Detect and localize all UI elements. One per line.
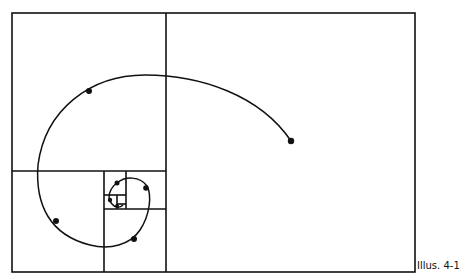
- spiral-point: [115, 181, 120, 186]
- spiral-point: [143, 185, 149, 191]
- spiral-point: [53, 218, 59, 224]
- spiral-point: [288, 138, 294, 144]
- figure-caption: Illus. 4-1: [417, 260, 460, 271]
- spiral-point: [115, 204, 119, 208]
- golden-spiral: [38, 75, 291, 247]
- golden-spiral-diagram: [0, 0, 467, 277]
- rectangle-grid: [12, 13, 415, 272]
- spiral-point: [108, 198, 112, 202]
- spiral-point: [86, 88, 92, 94]
- spiral-point: [131, 236, 137, 242]
- spiral-points: [53, 88, 294, 242]
- outer-rectangle: [12, 13, 415, 272]
